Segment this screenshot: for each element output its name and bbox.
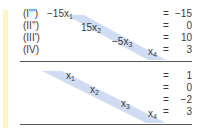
row-label: (IV) xyxy=(23,44,39,56)
term: −5x3 xyxy=(112,36,132,48)
rhs-value: −15 xyxy=(170,8,192,20)
divider-rule xyxy=(20,124,192,125)
rhs-value: 0 xyxy=(170,20,192,32)
term: x2 xyxy=(90,84,99,96)
equals-sign: = xyxy=(163,94,169,106)
equals-sign: = xyxy=(163,106,169,118)
rhs-value: −2 xyxy=(170,94,192,106)
divider-rule xyxy=(20,61,192,62)
term: 15x2 xyxy=(81,22,101,34)
equals-sign: = xyxy=(163,20,169,32)
term: x3 xyxy=(121,98,130,110)
term: x4 xyxy=(148,108,157,120)
rhs-value: 10 xyxy=(170,32,192,44)
equals-sign: = xyxy=(163,32,169,44)
row-label: (I''') xyxy=(23,8,38,20)
rhs-value: 3 xyxy=(170,44,192,56)
row-label: (II'') xyxy=(23,20,39,32)
rhs-value: 3 xyxy=(170,106,192,118)
rhs-value: 1 xyxy=(170,70,192,82)
equals-sign: = xyxy=(163,82,169,94)
rhs-value: 0 xyxy=(170,82,192,94)
row-label: (III') xyxy=(23,32,40,44)
term: x4 xyxy=(148,46,157,58)
equals-sign: = xyxy=(163,70,169,82)
equals-sign: = xyxy=(163,8,169,20)
term: −15x1 xyxy=(47,8,73,20)
equals-sign: = xyxy=(163,44,169,56)
term: x1 xyxy=(66,70,75,82)
